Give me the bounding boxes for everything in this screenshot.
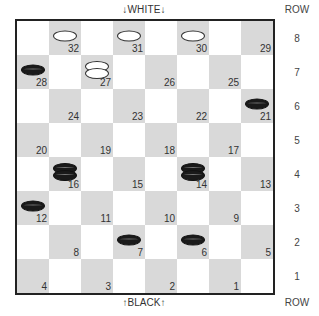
square-number: 31	[132, 43, 143, 54]
square-number: 24	[68, 111, 79, 122]
square-number: 14	[196, 179, 207, 190]
square-28[interactable]: 28	[17, 55, 49, 89]
square-11[interactable]: 11	[81, 191, 113, 225]
light-square	[209, 89, 241, 123]
light-square	[209, 157, 241, 191]
light-square	[241, 55, 273, 89]
light-square	[113, 123, 145, 157]
white-disc-icon	[53, 30, 77, 41]
square-25[interactable]: 25	[209, 55, 241, 89]
black-disc-icon	[21, 64, 45, 75]
square-number: 15	[132, 179, 143, 190]
light-square	[81, 157, 113, 191]
square-14[interactable]: 14	[177, 157, 209, 191]
white-side-label: ↓WHITE↓	[15, 4, 273, 15]
square-number: 16	[68, 179, 79, 190]
square-19[interactable]: 19	[81, 123, 113, 157]
square-24[interactable]: 24	[49, 89, 81, 123]
square-1[interactable]: 1	[209, 259, 241, 293]
black-piece[interactable]	[117, 234, 141, 245]
black-disc-icon	[245, 98, 269, 109]
square-number: 9	[233, 213, 239, 224]
white-disc-icon	[181, 30, 205, 41]
square-3[interactable]: 3	[81, 259, 113, 293]
square-number: 7	[137, 247, 143, 258]
white-piece[interactable]	[53, 30, 77, 41]
light-square	[17, 157, 49, 191]
black-piece[interactable]	[21, 200, 45, 211]
light-square	[209, 21, 241, 55]
square-number: 17	[228, 145, 239, 156]
square-8[interactable]: 8	[49, 225, 81, 259]
square-22[interactable]: 22	[177, 89, 209, 123]
square-number: 5	[265, 247, 271, 258]
black-disc-icon	[117, 234, 141, 245]
square-number: 27	[100, 77, 111, 88]
square-number: 18	[164, 145, 175, 156]
light-square	[81, 21, 113, 55]
square-18[interactable]: 18	[145, 123, 177, 157]
light-square	[177, 55, 209, 89]
square-29[interactable]: 29	[241, 21, 273, 55]
square-9[interactable]: 9	[209, 191, 241, 225]
light-square	[177, 191, 209, 225]
square-4[interactable]: 4	[17, 259, 49, 293]
square-30[interactable]: 30	[177, 21, 209, 55]
square-32[interactable]: 32	[49, 21, 81, 55]
light-square	[17, 21, 49, 55]
light-square	[241, 191, 273, 225]
square-27[interactable]: 27	[81, 55, 113, 89]
row-number: 7	[279, 67, 315, 78]
black-piece[interactable]	[245, 98, 269, 109]
light-square	[17, 89, 49, 123]
square-number: 1	[233, 281, 239, 292]
light-square	[49, 55, 81, 89]
light-square	[177, 123, 209, 157]
square-number: 3	[105, 281, 111, 292]
square-6[interactable]: 6	[177, 225, 209, 259]
square-17[interactable]: 17	[209, 123, 241, 157]
black-piece[interactable]	[21, 64, 45, 75]
black-piece[interactable]	[181, 234, 205, 245]
light-square	[49, 191, 81, 225]
light-square	[81, 89, 113, 123]
square-16[interactable]: 16	[49, 157, 81, 191]
row-number: 8	[279, 33, 315, 44]
light-square	[241, 123, 273, 157]
square-7[interactable]: 7	[113, 225, 145, 259]
square-number: 19	[100, 145, 111, 156]
row-number: 5	[279, 135, 315, 146]
checkers-board: 3231302928272625242322212019181716151413…	[15, 19, 275, 295]
white-piece[interactable]	[181, 30, 205, 41]
square-number: 2	[169, 281, 175, 292]
square-20[interactable]: 20	[17, 123, 49, 157]
square-number: 20	[36, 145, 47, 156]
light-square	[241, 259, 273, 293]
square-number: 32	[68, 43, 79, 54]
square-number: 6	[201, 247, 207, 258]
square-2[interactable]: 2	[145, 259, 177, 293]
square-5[interactable]: 5	[241, 225, 273, 259]
square-number: 30	[196, 43, 207, 54]
square-15[interactable]: 15	[113, 157, 145, 191]
light-square	[145, 225, 177, 259]
square-12[interactable]: 12	[17, 191, 49, 225]
square-number: 10	[164, 213, 175, 224]
light-square	[113, 191, 145, 225]
light-square	[145, 21, 177, 55]
square-21[interactable]: 21	[241, 89, 273, 123]
square-number: 23	[132, 111, 143, 122]
light-square	[49, 259, 81, 293]
light-square	[209, 225, 241, 259]
black-disc-icon	[181, 234, 205, 245]
white-piece[interactable]	[117, 30, 141, 41]
square-number: 21	[260, 111, 271, 122]
square-26[interactable]: 26	[145, 55, 177, 89]
square-13[interactable]: 13	[241, 157, 273, 191]
square-10[interactable]: 10	[145, 191, 177, 225]
square-number: 26	[164, 77, 175, 88]
square-number: 29	[260, 43, 271, 54]
square-31[interactable]: 31	[113, 21, 145, 55]
square-23[interactable]: 23	[113, 89, 145, 123]
light-square	[81, 225, 113, 259]
